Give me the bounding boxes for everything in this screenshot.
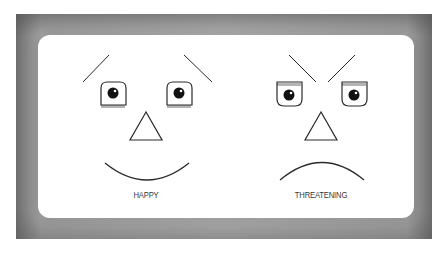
faces-diagram <box>0 0 448 254</box>
happy-face <box>83 55 212 180</box>
threatening-left-pupil <box>284 90 295 101</box>
threatening-mouth <box>280 163 364 181</box>
threatening-right-eye <box>342 82 367 106</box>
happy-mouth <box>105 163 189 180</box>
threatening-face <box>277 55 367 180</box>
threatening-left-brow <box>289 55 316 82</box>
happy-left-eye <box>101 82 126 108</box>
threatening-right-brow <box>328 55 355 82</box>
happy-left-brow <box>83 55 109 82</box>
threatening-nose <box>305 112 337 140</box>
happy-right-eye <box>167 82 192 108</box>
happy-right-brow <box>184 55 212 82</box>
threatening-right-pupil <box>349 90 360 101</box>
happy-nose <box>130 112 162 140</box>
happy-right-pupil <box>174 88 185 99</box>
happy-label: HAPPY <box>133 190 158 200</box>
threatening-left-eye <box>277 82 302 106</box>
threatening-label: THREATENING <box>295 190 347 200</box>
happy-left-pupil <box>108 88 119 99</box>
